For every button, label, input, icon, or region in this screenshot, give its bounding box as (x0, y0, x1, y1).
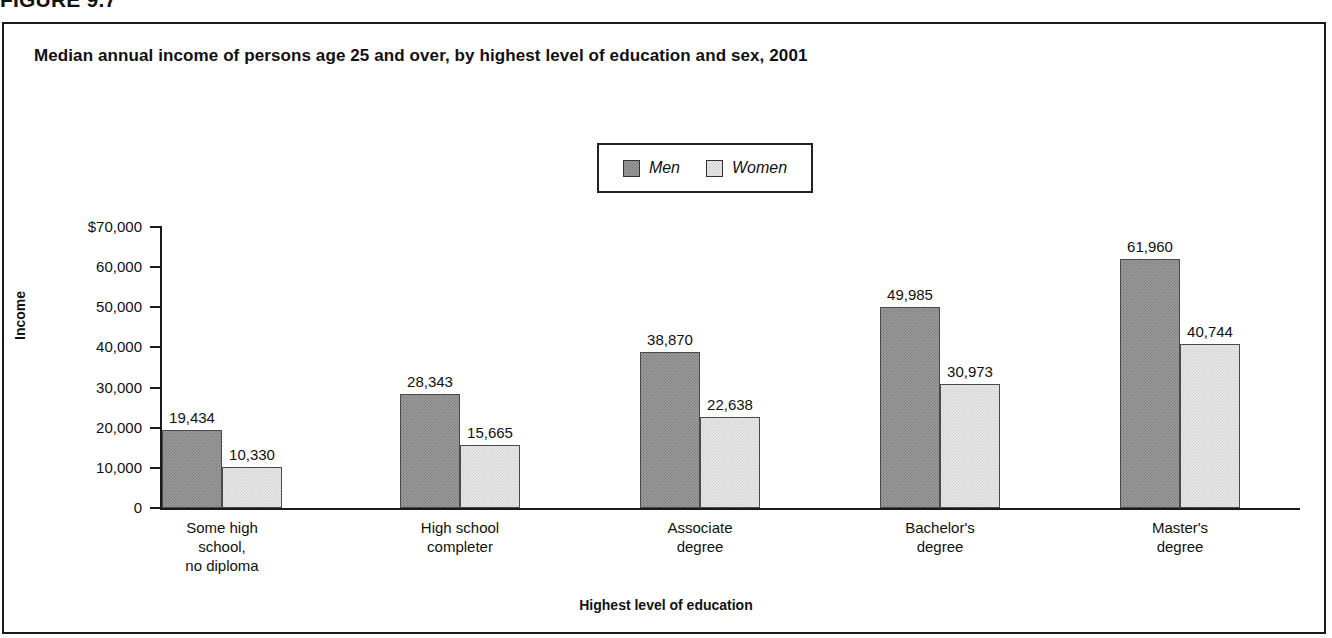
bar-men[interactable]: 19,434 (162, 430, 222, 508)
bar-group: 28,34315,665 (400, 224, 520, 508)
bar-wrapper: 22,638 (700, 224, 760, 508)
bar-value-label: 61,960 (1127, 238, 1173, 255)
category-label-line: completer (360, 537, 560, 556)
x-axis-category-label: Master'sdegree (1080, 518, 1280, 556)
bar-women[interactable]: 15,665 (460, 445, 520, 508)
bar-wrapper: 38,870 (640, 224, 700, 508)
bar-wrapper: 10,330 (222, 224, 282, 508)
y-axis-tick-label: 40,000 (96, 338, 142, 355)
category-label-line: Master's (1080, 518, 1280, 537)
bar-value-label: 38,870 (647, 331, 693, 348)
bar-men[interactable]: 38,870 (640, 352, 700, 508)
bar-value-label: 40,744 (1187, 323, 1233, 340)
y-axis-title: Income (12, 291, 28, 340)
bar-group: 61,96040,744 (1120, 224, 1240, 508)
y-axis-tick (150, 427, 161, 429)
y-axis-tick (150, 306, 161, 308)
y-axis-tick-label: 50,000 (96, 298, 142, 315)
category-label-line: Some high (122, 518, 322, 537)
category-label-line: High school (360, 518, 560, 537)
category-label-line: degree (840, 537, 1040, 556)
category-label-line: degree (1080, 537, 1280, 556)
y-axis-tick (150, 266, 161, 268)
bar-wrapper: 19,434 (162, 224, 222, 508)
category-label-line: degree (600, 537, 800, 556)
bar-women[interactable]: 10,330 (222, 467, 282, 508)
bar-value-label: 10,330 (229, 446, 275, 463)
y-axis-tick-label: 10,000 (96, 459, 142, 476)
chart-plot-area: $70,00060,00050,00040,00030,00020,00010,… (0, 0, 1332, 638)
bar-wrapper: 30,973 (940, 224, 1000, 508)
bar-women[interactable]: 30,973 (940, 384, 1000, 508)
y-axis-tick (150, 467, 161, 469)
bar-wrapper: 15,665 (460, 224, 520, 508)
y-axis-tick-label: $70,000 (88, 218, 142, 235)
bar-men[interactable]: 49,985 (880, 307, 940, 508)
bar-value-label: 15,665 (467, 424, 513, 441)
y-axis-tick (150, 507, 161, 509)
y-axis-tick-label: 0 (134, 499, 142, 516)
y-axis-tick-label: 20,000 (96, 419, 142, 436)
x-axis-category-label: Bachelor'sdegree (840, 518, 1040, 556)
category-label-line: school, (122, 537, 322, 556)
bar-women[interactable]: 22,638 (700, 417, 760, 508)
x-axis-title: Highest level of education (0, 597, 1332, 613)
bar-value-label: 30,973 (947, 363, 993, 380)
bar-men[interactable]: 28,343 (400, 394, 460, 508)
bar-value-label: 28,343 (407, 373, 453, 390)
category-label-line: Bachelor's (840, 518, 1040, 537)
x-axis-line (160, 508, 1300, 510)
bar-group: 38,87022,638 (640, 224, 760, 508)
x-axis-category-label: High schoolcompleter (360, 518, 560, 556)
y-axis-tick (150, 387, 161, 389)
bar-group: 49,98530,973 (880, 224, 1000, 508)
category-label-line: no diploma (122, 556, 322, 575)
y-axis-tick-label: 60,000 (96, 258, 142, 275)
bar-group: 19,43410,330 (162, 224, 282, 508)
bar-wrapper: 61,960 (1120, 224, 1180, 508)
x-axis-category-label: Associatedegree (600, 518, 800, 556)
y-axis-tick (150, 226, 161, 228)
x-axis-category-label: Some highschool,no diploma (122, 518, 322, 575)
bar-women[interactable]: 40,744 (1180, 344, 1240, 508)
y-axis-tick-label: 30,000 (96, 379, 142, 396)
bar-wrapper: 40,744 (1180, 224, 1240, 508)
bar-wrapper: 49,985 (880, 224, 940, 508)
bar-men[interactable]: 61,960 (1120, 259, 1180, 508)
bar-value-label: 19,434 (169, 409, 215, 426)
bar-wrapper: 28,343 (400, 224, 460, 508)
bar-value-label: 22,638 (707, 396, 753, 413)
y-axis-tick (150, 346, 161, 348)
bar-value-label: 49,985 (887, 286, 933, 303)
category-label-line: Associate (600, 518, 800, 537)
